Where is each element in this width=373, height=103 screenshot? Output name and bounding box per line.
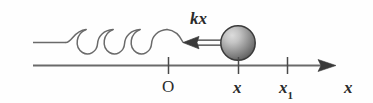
x-axis-label: x <box>344 79 353 96</box>
x-axis-arrowhead <box>318 60 336 72</box>
position-max-subscript: 1 <box>288 89 294 101</box>
position-max-base: x <box>279 78 288 97</box>
mass-ball <box>221 26 255 60</box>
force-label: kx <box>190 10 207 27</box>
figure-canvas <box>0 0 373 103</box>
position-label: x <box>233 79 242 96</box>
spring-coil <box>66 30 183 54</box>
origin-label: O <box>162 78 174 95</box>
force-arrow <box>183 36 222 48</box>
position-max-label: x1 <box>279 79 293 99</box>
physics-figure: kx O x x1 x <box>0 0 373 103</box>
